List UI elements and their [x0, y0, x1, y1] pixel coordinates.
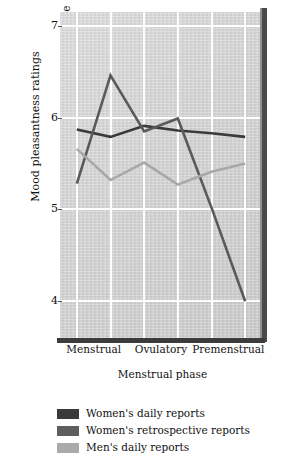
- plot-area: [60, 12, 262, 338]
- series-line: [77, 149, 245, 185]
- y-axis-tick-mark: [58, 209, 62, 210]
- x-axis-title: Menstrual phase: [55, 368, 270, 380]
- legend-item: Women's daily reports: [57, 406, 272, 421]
- chart-figure: 7654 Mood pleasantness ratings negative …: [0, 0, 287, 460]
- x-axis-tick-label: Premenstrual: [188, 343, 268, 355]
- series-layer: [60, 12, 262, 338]
- legend-item: Women's retrospective reports: [57, 423, 272, 438]
- y-axis-tick-mark: [58, 26, 62, 27]
- legend-item: Men's daily reports: [57, 440, 272, 455]
- plot-right-edge: [262, 8, 267, 342]
- y-axis-tick-mark: [58, 118, 62, 119]
- legend-label: Women's daily reports: [86, 408, 205, 419]
- y-axis-title: Mood pleasantness ratings: [29, 17, 42, 237]
- y-axis-tick-label: 6: [40, 112, 58, 123]
- y-axis-tick-label: 7: [40, 20, 58, 31]
- legend-color-swatch: [57, 443, 79, 453]
- series-line: [77, 75, 245, 301]
- legend-label: Men's daily reports: [86, 442, 189, 453]
- x-axis-ticks: MenstrualOvulatoryPremenstrual: [55, 343, 270, 359]
- legend-label: Women's retrospective reports: [86, 425, 250, 436]
- y-axis-tick-mark: [58, 301, 62, 302]
- series-line: [77, 126, 245, 137]
- chart-legend: Women's daily reportsWomen's retrospecti…: [57, 406, 272, 457]
- legend-color-swatch: [57, 426, 79, 436]
- legend-color-swatch: [57, 409, 79, 419]
- y-axis-tick-label: 5: [40, 203, 58, 214]
- y-axis-tick-label: 4: [40, 295, 58, 306]
